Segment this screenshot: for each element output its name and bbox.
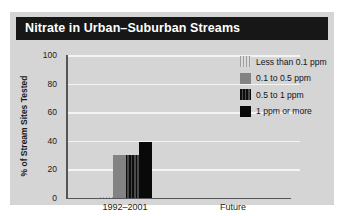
legend-item-0-5-to-1-ppm: 0.5 to 1 ppm (240, 89, 344, 100)
legend-swatch-0-5-to-1-ppm (240, 89, 251, 100)
legend-label-0-1-to-0-5-ppm: 0.1 to 0.5 ppm (256, 73, 311, 83)
x-axis-line (66, 198, 291, 200)
bar-0-5-to-1-ppm-1992-2001 (126, 155, 139, 198)
y-tick-label-40: 40 (27, 136, 57, 146)
legend-item-less-than-0-1-ppm: Less than 0.1 ppm (240, 56, 344, 67)
legend-label-0-5-to-1-ppm: 0.5 to 1 ppm (256, 90, 304, 100)
chart-figure: Nitrate in Urban–Suburban Streams % of S… (0, 0, 344, 216)
legend-label-1-ppm-or-more: 1 ppm or more (256, 106, 312, 116)
y-axis-label: % of Stream Sites Tested (19, 76, 29, 177)
y-axis-line (66, 55, 68, 199)
legend-label-less-than-0-1-ppm: Less than 0.1 ppm (256, 57, 327, 67)
gridline-40 (67, 141, 300, 143)
x-tick-label-1992-2001: 1992–2001 (102, 202, 147, 212)
gridline-20 (67, 169, 300, 171)
chart-title-bar: Nitrate in Urban–Suburban Streams (16, 17, 328, 40)
legend-swatch-less-than-0-1-ppm (240, 56, 251, 67)
y-tick-label-100: 100 (27, 50, 57, 60)
y-tick-label-20: 20 (27, 164, 57, 174)
y-tick-label-80: 80 (27, 79, 57, 89)
y-tick-label-0: 0 (27, 193, 57, 203)
legend-item-0-1-to-0-5-ppm: 0.1 to 0.5 ppm (240, 73, 344, 84)
chart-legend: Less than 0.1 ppm 0.1 to 0.5 ppm 0.5 to … (240, 56, 344, 122)
bar-0-1-to-0-5-ppm-1992-2001 (113, 155, 126, 198)
legend-swatch-0-1-to-0-5-ppm (240, 73, 251, 84)
legend-swatch-1-ppm-or-more (240, 106, 251, 117)
x-tick-label-future: Future (220, 202, 246, 212)
legend-item-1-ppm-or-more: 1 ppm or more (240, 106, 344, 117)
chart-title: Nitrate in Urban–Suburban Streams (25, 21, 240, 35)
y-tick-label-60: 60 (27, 107, 57, 117)
chart-panel: Nitrate in Urban–Suburban Streams % of S… (10, 12, 334, 205)
bar-1-ppm-or-more-1992-2001 (139, 142, 152, 198)
